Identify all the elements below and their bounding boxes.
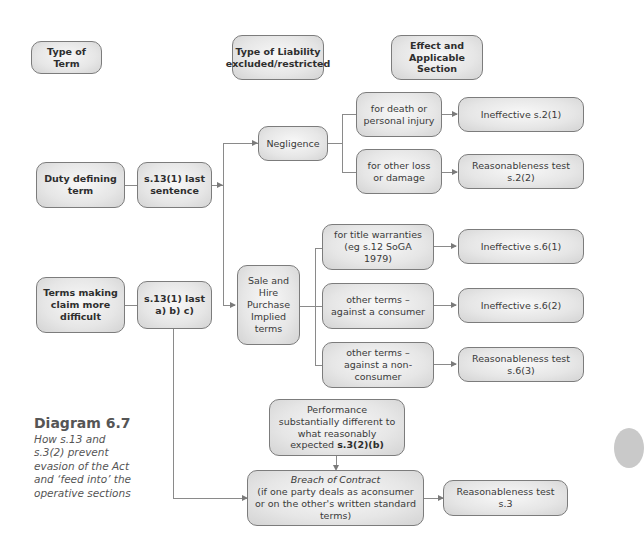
connector <box>173 498 247 499</box>
box-label: s.13(1) last a) b) c) <box>144 293 205 317</box>
header-label: Type of Term <box>38 46 95 70</box>
effect-s2-1-box: Ineffective s.2(1) <box>458 97 584 132</box>
connector <box>342 114 343 173</box>
breach-of-contract-box: Breach of Contract (if one party deals a… <box>247 470 424 526</box>
duty-defining-section-box: s.13(1) last sentence <box>137 162 212 208</box>
header-label: Effect and Applicable Section <box>398 40 476 76</box>
header-type-of-term: Type of Term <box>31 41 102 74</box>
claim-difficult-term-box: Terms making claim more difficult <box>36 277 125 333</box>
box-label: s.13(1) last sentence <box>144 173 205 197</box>
connector <box>342 114 356 115</box>
breach-detail: (if one party deals as aconsumer or on t… <box>254 486 417 522</box>
header-label: Type of Liability excluded/restricted <box>226 46 330 70</box>
box-label: Negligence <box>266 138 319 150</box>
arrow-icon <box>451 243 457 249</box>
connector <box>125 185 137 186</box>
box-label: Ineffective s.2(1) <box>481 109 562 121</box>
box-label: Ineffective s.6(1) <box>481 241 562 253</box>
box-label: other terms – against a non-consumer <box>329 347 427 383</box>
death-injury-box: for death or personal injury <box>356 92 442 137</box>
box-label: for title warranties (eg s.12 SoGA 1979) <box>329 229 427 265</box>
box-label: Duty defining term <box>43 173 118 197</box>
against-consumer-box: other terms – against a consumer <box>322 283 434 329</box>
performance-box: Performance substantially different to w… <box>269 399 405 456</box>
effect-s3-box: Reasonableness test s.3 <box>443 480 568 516</box>
breach-title: Breach of Contract <box>291 474 380 486</box>
caption-title: Diagram 6.7 <box>34 415 131 431</box>
connector <box>328 143 342 144</box>
effect-s6-3-box: Reasonableness test s.6(3) <box>458 347 584 382</box>
box-label: Sale and Hire Purchase Implied terms <box>242 275 295 334</box>
box-label: Ineffective s.6(2) <box>481 300 562 312</box>
connector <box>300 306 315 307</box>
box-label: for other loss or damage <box>363 160 435 184</box>
box-label: Reasonableness test s.2(2) <box>465 160 577 184</box>
claim-difficult-section-box: s.13(1) last a) b) c) <box>137 281 212 329</box>
sale-hire-box: Sale and Hire Purchase Implied terms <box>237 265 300 345</box>
duty-defining-term-box: Duty defining term <box>36 162 125 208</box>
box-label: other terms – against a consumer <box>329 294 427 318</box>
performance-section: s.3(2)(b) <box>337 439 384 450</box>
effect-s6-1-box: Ineffective s.6(1) <box>458 229 584 264</box>
connector <box>125 305 137 306</box>
connector <box>315 248 316 366</box>
box-label: Terms making claim more difficult <box>43 287 118 323</box>
box-label: Reasonableness test s.3 <box>450 486 561 510</box>
effect-s2-2-box: Reasonableness test s.2(2) <box>458 154 584 189</box>
negligence-box: Negligence <box>258 126 328 161</box>
connector <box>342 172 356 173</box>
caption-text: How s.13 and s.3(2) prevent evasion of t… <box>34 433 134 500</box>
header-effect: Effect and Applicable Section <box>391 35 483 80</box>
title-warranties-box: for title warranties (eg s.12 SoGA 1979) <box>322 224 434 270</box>
connector <box>173 329 174 498</box>
trunk-connector <box>223 143 224 306</box>
header-type-of-liability: Type of Liability excluded/restricted <box>232 35 324 80</box>
arrow-icon <box>451 302 457 308</box>
page-tab-marker <box>614 428 644 468</box>
arrow-icon <box>230 302 236 308</box>
other-loss-box: for other loss or damage <box>356 149 442 194</box>
box-label: Performance substantially different to w… <box>278 404 396 452</box>
against-nonconsumer-box: other terms – against a non-consumer <box>322 342 434 388</box>
arrow-icon <box>451 361 457 367</box>
box-label: Reasonableness test s.6(3) <box>465 353 577 377</box>
box-label: for death or personal injury <box>363 103 435 127</box>
effect-s6-2-box: Ineffective s.6(2) <box>458 288 584 323</box>
